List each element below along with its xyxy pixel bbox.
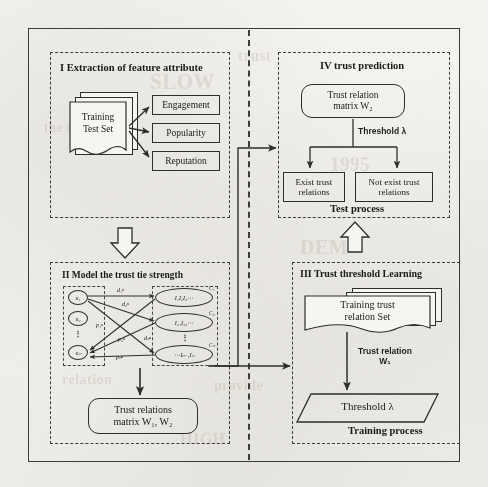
edge-label-d1: d₁ⁿ	[117, 287, 124, 293]
user-node-1: u₁	[68, 290, 88, 305]
user-node-2: u₂	[68, 311, 88, 326]
training-process-footer: Training process	[348, 425, 423, 436]
item-tag-c1: C₁	[209, 285, 215, 291]
edge-label-p2: p₂ⁿ	[118, 336, 125, 342]
panel-model-title: II Model the trust tie strength	[62, 270, 183, 280]
panel-prediction-title: IV trust prediction	[320, 60, 404, 71]
test-process-footer: Test process	[330, 203, 384, 214]
panel-threshold-title: III Trust threshold Learning	[300, 268, 422, 279]
not-exist-trust-line2: relations	[369, 187, 420, 197]
feature-popularity: Popularity	[152, 123, 220, 143]
trust-relation-matrix-w2-box: Trust relation matrix W₂	[301, 84, 405, 118]
item-group-1: I₁I₂I₃⋯	[155, 288, 213, 307]
training-trust-line1: Training trust	[305, 299, 430, 311]
w2-line1: Trust relation	[327, 90, 378, 101]
exist-trust-line1: Exist trust	[296, 177, 333, 187]
training-label: Training	[70, 112, 126, 124]
process-divider	[248, 30, 250, 460]
edge-label-p1: p₁ⁿ	[96, 322, 103, 328]
w2-line2: matrix W₂	[327, 101, 378, 112]
trust-relation-w1-label: Trust relation W₁	[358, 347, 412, 367]
outcome-exist-trust: Exist trust relations	[283, 172, 345, 202]
feature-engagement: Engagement	[152, 95, 220, 115]
outcome-not-exist-trust: Not exist trust relations	[355, 172, 433, 202]
item-group-n: ⋯Iₙ₋₁Iₙ	[155, 345, 213, 364]
trust-relations-line1: Trust relations	[113, 404, 172, 416]
w1-label-line2: W₁	[358, 357, 412, 367]
item-ellipsis: ⋮	[181, 333, 190, 342]
feature-reputation: Reputation	[152, 151, 220, 171]
edge-label-dn: dₙⁿ	[144, 334, 151, 341]
exist-trust-line2: relations	[296, 187, 333, 197]
item-tag-cn: Cₙ	[209, 342, 215, 348]
test-set-label: Test Set	[70, 124, 126, 136]
item-tag-c2: C₂	[209, 310, 215, 316]
edge-label-d2: d₂ⁿ	[122, 301, 129, 307]
item-group-2: I₂₁I₂₂⋯	[155, 313, 213, 332]
user-node-n: uₙ	[68, 345, 88, 360]
trust-relations-matrix-box: Trust relations matrix W₁, W₂	[88, 398, 198, 434]
edge-label-pn: pₙⁿ	[116, 353, 123, 360]
threshold-lambda-result: Threshold λ	[297, 400, 438, 412]
trust-relations-line2: matrix W₁, W₂	[113, 416, 172, 428]
not-exist-trust-line1: Not exist trust	[369, 177, 420, 187]
user-ellipsis: ⋮	[74, 329, 83, 338]
training-trust-line2: relation Set	[305, 311, 430, 323]
threshold-lambda-label: Threshold λ	[358, 127, 406, 137]
panel-extraction-title: I Extraction of feature attribute	[60, 62, 203, 73]
